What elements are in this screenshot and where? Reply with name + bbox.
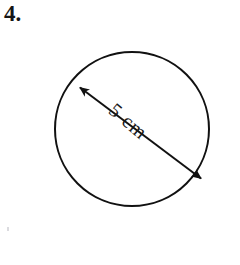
- worksheet-page: 4. 5 cm: [0, 0, 240, 265]
- circle-diagram: [0, 0, 240, 265]
- scan-artifact-speck: [7, 227, 9, 231]
